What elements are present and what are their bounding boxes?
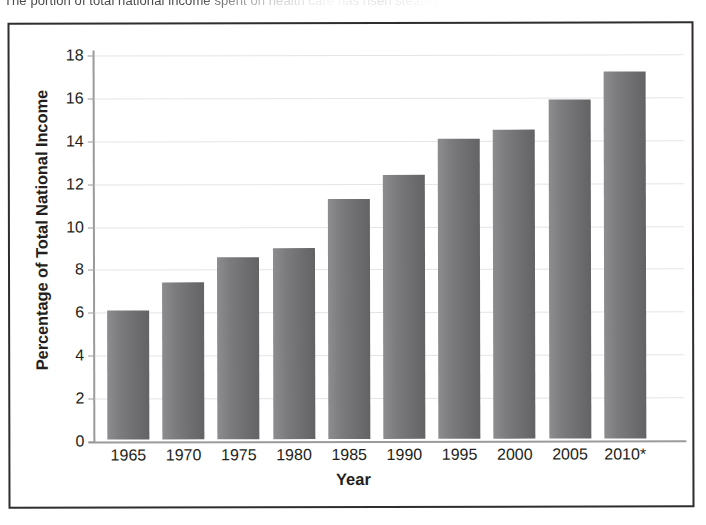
x-tick-label: 1985 [318, 446, 380, 464]
x-tick-label: 1975 [208, 446, 270, 464]
x-tick-label: 2005 [539, 445, 601, 463]
x-tick-label: 1970 [153, 446, 215, 464]
bar-1985 [328, 199, 371, 439]
bar-1975 [217, 257, 259, 439]
bar-2005 [548, 100, 591, 439]
bar-1965 [107, 311, 149, 440]
figure-caption-text: The portion of total national income spe… [4, 0, 443, 8]
x-tick-label: 2000 [484, 446, 546, 464]
bar-2000 [493, 130, 536, 439]
bars-layer [9, 23, 696, 510]
bar-1980 [273, 248, 315, 439]
figure-frame: Percentage of Total National Income Year… [7, 21, 694, 508]
x-tick-label: 1995 [429, 446, 491, 464]
x-tick-label: 1990 [373, 446, 435, 464]
x-tick-label: 1965 [97, 446, 159, 464]
bar-1990 [383, 175, 426, 439]
x-tick-label: 1980 [263, 446, 325, 464]
x-tick-label: 2010* [594, 445, 656, 463]
bar-2010 [603, 72, 646, 439]
figure-caption-strip: The portion of total national income spe… [0, 0, 706, 12]
chart-plot-area: Percentage of Total National Income Year… [9, 23, 696, 510]
bar-1970 [162, 283, 204, 440]
bar-1995 [438, 139, 481, 439]
